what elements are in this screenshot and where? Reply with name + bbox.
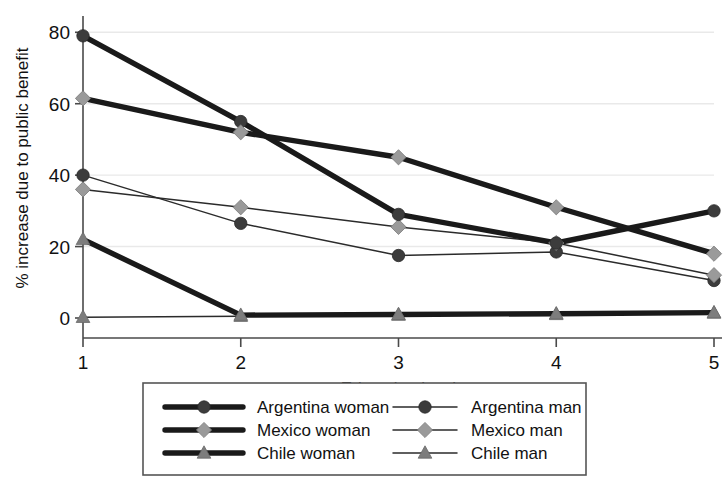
data-point [550, 237, 562, 249]
line-chart: 020406080 12345 Education level % increa… [0, 0, 727, 493]
legend-label: Argentina man [471, 398, 582, 417]
y-tick-label-20: 20 [49, 237, 70, 258]
chart-container: 020406080 12345 Education level % increa… [0, 0, 727, 493]
x-tick-label-1: 1 [78, 352, 89, 373]
y-tick-label-80: 80 [49, 22, 70, 43]
legend-label: Mexico man [471, 421, 563, 440]
data-point [77, 30, 89, 42]
data-point [392, 249, 404, 261]
x-tick-label-5: 5 [709, 352, 720, 373]
legend-label: Chile woman [257, 444, 355, 463]
y-tick-label-60: 60 [49, 94, 70, 115]
x-tick-label-3: 3 [393, 352, 404, 373]
legend-label: Mexico woman [257, 421, 370, 440]
y-tick-label-40: 40 [49, 165, 70, 186]
data-point [235, 217, 247, 229]
legend-label: Chile man [471, 444, 548, 463]
data-point [708, 205, 720, 217]
chart-legend: Argentina womanMexico womanChile womanAr… [143, 383, 586, 475]
data-point [77, 169, 89, 181]
x-tick-label-2: 2 [235, 352, 246, 373]
y-tick-label-0: 0 [59, 308, 70, 329]
legend-marker [419, 401, 431, 413]
data-point [392, 208, 404, 220]
legend-label: Argentina woman [257, 398, 389, 417]
x-tick-label-4: 4 [551, 352, 562, 373]
y-axis-title: % increase due to public benefit [13, 47, 32, 288]
legend-marker [198, 401, 210, 413]
